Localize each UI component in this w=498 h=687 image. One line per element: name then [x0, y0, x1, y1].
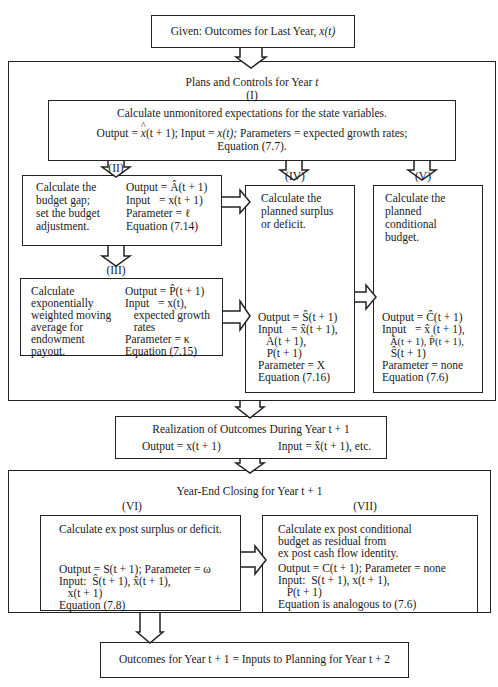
box-ii-desc-line: budget gap;: [36, 194, 90, 207]
box-ii-param-line: Equation (7.14): [126, 220, 198, 233]
plans-title-var: t: [315, 76, 318, 88]
box-iii-param-line: Equation (7.15): [125, 345, 197, 358]
box-ii-param-line: Parameter = ℓ: [126, 207, 190, 220]
box-vi-description: Calculate ex post surplus or deficit.: [59, 523, 222, 536]
box-iv-label: (IV): [275, 170, 315, 182]
box-i-output-rest: (t + 1); Input =: [146, 127, 217, 139]
box-ii-desc-line: set the budget: [36, 207, 100, 220]
realization-output: Output = x(t + 1): [142, 440, 221, 453]
box-i-output-var: x: [141, 127, 146, 140]
realization-input: Input = x̂(t + 1), etc.: [278, 440, 371, 453]
plans-title-text: Plans and Controls for Year: [186, 76, 316, 88]
box-ii-label: (II): [96, 162, 136, 174]
box-vii-desc-line: ex post cash flow identity.: [278, 547, 398, 560]
given-title-text: Given: Outcomes for Last Year,: [171, 25, 320, 37]
given-outcomes-title: Given: Outcomes for Last Year, x(t): [151, 25, 355, 38]
plans-title: Plans and Controls for Year t: [8, 76, 496, 89]
box-i-parameters: Parameters = expected growth rates;: [237, 127, 407, 139]
box-iv-desc-line: planned surplus: [261, 205, 334, 218]
box-v-label: (V): [403, 170, 443, 182]
box-vii-param-line: Equation is analogous to (7.6): [278, 598, 416, 611]
box-iii-desc-line: payout.: [31, 345, 65, 358]
box-ii-param-line: Input = x(t + 1): [126, 194, 203, 207]
box-i-line2: Output = x(t + 1); Input = x(t); Paramet…: [48, 127, 456, 140]
box-ii-desc-line: adjustment.: [36, 220, 89, 233]
box-vi-param-line: Equation (7.8): [59, 599, 125, 612]
box-ii-param-line: Output = Â(t + 1): [126, 181, 207, 194]
final-outcomes-title: Outcomes for Year t + 1 = Inputs to Plan…: [100, 653, 409, 666]
box-iii-label: (III): [96, 264, 136, 276]
box-i-line1: Calculate unmonitored expectations for t…: [48, 107, 456, 120]
arrow-closing-to-final: [137, 613, 163, 643]
box-v-desc-line: conditional: [385, 218, 437, 231]
box-i-output-label: Output =: [97, 127, 141, 139]
box-vi-label: (VI): [112, 500, 152, 512]
box-iv-desc-line: Calculate the: [261, 192, 321, 205]
box-i-equation: Equation (7.7).: [48, 140, 456, 153]
box-v-desc-line: planned: [385, 205, 421, 218]
box-ii-desc-line: Calculate the: [36, 181, 96, 194]
closing-title: Year-End Closing for Year t + 1: [8, 485, 491, 498]
box-i-label: (I): [8, 89, 496, 101]
box-v-desc-line: budget.: [385, 231, 419, 244]
box-v-desc-line: Calculate the: [385, 192, 445, 205]
given-title-var: x(t): [319, 25, 335, 37]
box-iv-desc-line: or deficit.: [261, 218, 306, 231]
box-iv-param-line: Equation (7.16): [258, 371, 330, 384]
box-vii-label: (VII): [340, 500, 390, 512]
box-v-param-line: Equation (7.6): [382, 371, 448, 384]
box-i-input-var: x(t);: [217, 127, 237, 139]
realization-title: Realization of Outcomes During Year t + …: [115, 423, 387, 436]
